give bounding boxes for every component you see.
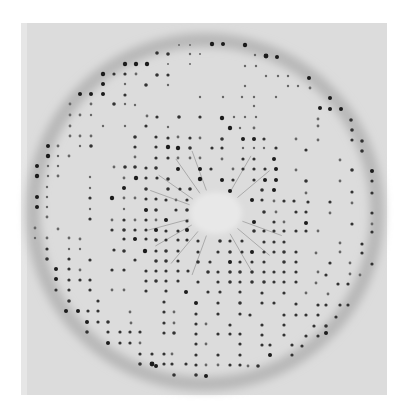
diffraction-spot — [154, 208, 158, 212]
diffraction-spot — [294, 250, 297, 253]
diffraction-spot — [135, 73, 138, 76]
diffraction-spot — [275, 211, 278, 214]
diffraction-spot — [294, 313, 297, 316]
diffraction-spot — [250, 260, 253, 263]
diffraction-spot — [216, 353, 219, 356]
diffraction-spot — [144, 124, 147, 127]
diffraction-spot — [68, 237, 71, 240]
diffraction-spot — [150, 352, 153, 355]
diffraction-spot — [175, 199, 178, 202]
diffraction-spot — [123, 208, 125, 210]
diffraction-spot — [304, 210, 307, 213]
diffraction-spot — [252, 229, 256, 233]
diffraction-spot — [144, 208, 148, 212]
diffraction-spot — [294, 229, 297, 232]
diffraction-spot — [317, 118, 320, 121]
diffraction-spot — [154, 156, 157, 159]
diffraction-spot — [167, 84, 169, 86]
diffraction-spot — [316, 303, 319, 306]
diffraction-spot — [155, 51, 159, 55]
diffraction-spot — [210, 146, 213, 149]
diffraction-spot — [216, 270, 219, 273]
diffraction-spot — [164, 198, 167, 201]
diffraction-spot — [154, 145, 157, 148]
diffraction-spot — [166, 187, 170, 191]
diffraction-spot — [220, 137, 224, 141]
diffraction-spot — [177, 136, 180, 139]
diffraction-spot — [232, 168, 235, 171]
diffraction-spot — [154, 166, 158, 170]
diffraction-spot — [282, 229, 285, 232]
diffraction-spot — [339, 159, 342, 162]
diffraction-spot — [78, 278, 81, 281]
diffraction-spot — [360, 139, 364, 143]
diffraction-spot — [252, 157, 255, 160]
diffraction-spot — [252, 167, 255, 170]
diffraction-spot — [186, 269, 189, 272]
diffraction-spot — [272, 220, 275, 223]
diffraction-spot — [360, 251, 363, 254]
diffraction-spot — [324, 303, 327, 306]
diffraction-spot — [150, 362, 155, 367]
diffraction-spot — [350, 128, 354, 132]
diffraction-spot — [328, 107, 332, 111]
diffraction-spot — [216, 280, 219, 283]
diffraction-spot — [205, 364, 208, 367]
diffraction-spot — [106, 330, 109, 333]
diffraction-spot — [304, 334, 307, 337]
diffraction-spot — [252, 178, 255, 181]
diffraction-spot — [287, 85, 289, 87]
diffraction-spot — [118, 330, 121, 333]
diffraction-spot — [349, 262, 352, 265]
diffraction-spot — [228, 363, 231, 366]
diffraction-spot — [272, 301, 275, 304]
diffraction-spot — [370, 169, 374, 173]
diffraction-spot — [79, 238, 82, 241]
diffraction-spot — [88, 278, 91, 281]
diffraction-spot — [122, 228, 126, 232]
diffraction-spot — [79, 114, 82, 117]
diffraction-spot — [328, 96, 332, 100]
diffraction-spot — [54, 288, 57, 291]
diffraction-spot — [312, 324, 315, 327]
diffraction-spot — [208, 260, 211, 263]
diffraction-spot — [260, 291, 263, 294]
diffraction-spot — [69, 103, 72, 106]
diffraction-spot — [154, 249, 157, 252]
diffraction-spot — [243, 43, 247, 47]
diffraction-spot — [262, 137, 265, 140]
diffraction-spot — [162, 300, 165, 303]
diffraction-spot — [316, 334, 319, 337]
diffraction-spot — [272, 229, 275, 232]
diffraction-spot — [198, 115, 201, 118]
diffraction-spot — [250, 198, 254, 202]
diffraction-spot — [155, 115, 158, 118]
diffraction-spot — [144, 218, 147, 221]
diffraction-spot — [164, 218, 168, 222]
diffraction-spot — [176, 269, 179, 272]
diffraction-spot — [260, 188, 264, 192]
diffraction-spot — [185, 198, 188, 201]
diffraction-spot — [339, 251, 342, 254]
diffraction-spot — [268, 343, 271, 346]
diffraction-spot — [199, 96, 201, 98]
diffraction-spot — [189, 53, 191, 55]
diffraction-spot — [238, 270, 242, 274]
diffraction-spot — [370, 191, 373, 194]
diffraction-spot — [346, 303, 349, 306]
diffraction-spot — [64, 309, 68, 313]
diffraction-spot — [106, 320, 110, 324]
diffraction-spot — [282, 313, 285, 316]
diffraction-spot — [370, 262, 373, 265]
diffraction-spot — [164, 289, 167, 292]
diffraction-spot — [162, 352, 165, 355]
diffraction-spot — [324, 273, 327, 276]
diffraction-spot — [339, 242, 342, 245]
diffraction-spot — [254, 54, 256, 56]
diffraction-spot — [294, 270, 297, 273]
diffraction-spot — [238, 260, 241, 263]
diffraction-spot — [122, 268, 125, 271]
diffraction-spot — [262, 229, 265, 232]
diffraction-spot — [297, 85, 299, 87]
diffraction-spot — [315, 282, 318, 285]
